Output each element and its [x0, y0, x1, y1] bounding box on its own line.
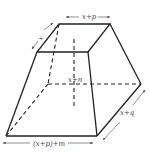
top-depth-arrow-up	[44, 23, 53, 30]
frustum-diagram: x+p x x+n x+q (x+p)+m	[0, 0, 150, 164]
label-top-width: x+p	[82, 13, 97, 21]
bottom-left-hidden-edge	[6, 84, 48, 136]
back-right-edge	[110, 24, 141, 84]
bottom-depth-arrow-down	[103, 122, 120, 140]
bottom-right-edge	[97, 84, 141, 136]
label-height: x+n	[68, 76, 83, 84]
front-right-edge	[88, 52, 97, 136]
top-depth-arrow-down	[32, 41, 38, 49]
back-left-hidden-edge	[48, 24, 59, 84]
front-left-edge	[6, 52, 37, 136]
label-bottom-width: (x+p)+m	[33, 140, 66, 148]
label-bottom-depth: x+q	[120, 109, 135, 117]
